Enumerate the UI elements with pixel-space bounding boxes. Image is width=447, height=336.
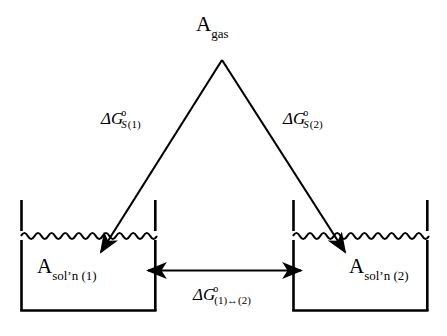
node-label-a-soln-2: Asol’n (2) (349, 256, 409, 280)
thermodynamic-cycle-diagram: Agas Asol’n (1) Asol’n (2) ΔGoS(1) ΔGoS(… (0, 0, 447, 336)
arrow-label-delta-g-s2-subscript-plain: (2) (310, 118, 323, 130)
liquid-surface-right (293, 233, 429, 239)
node-label-a-soln-2-subscript: sol’n (2) (364, 268, 408, 283)
arrow-label-delta-g-1-2-symbol: ΔG (193, 285, 215, 304)
arrow-label-delta-g-s1-superscript: o (121, 107, 126, 118)
node-label-a-soln-1: Asol’n (1) (37, 256, 97, 280)
arrow-label-delta-g-s1: ΔGoS(1) (101, 110, 147, 127)
node-label-a-gas-base: A (196, 12, 211, 36)
node-label-a-gas-subscript: gas (211, 26, 228, 41)
arrow-label-delta-g-s1-symbol: ΔG (101, 109, 123, 128)
node-label-a-gas: Agas (196, 14, 229, 38)
arrow-label-delta-g-s2-subscript-italic: S (303, 118, 309, 130)
arrow-label-delta-g-1-2: ΔGo(1)↔(2) (193, 286, 257, 303)
arrow-label-delta-g-s2: ΔGoS(2) (283, 110, 329, 127)
node-label-a-soln-1-base: A (37, 254, 52, 278)
arrow-label-delta-g-1-2-superscript: o (213, 283, 218, 294)
arrow-label-delta-g-1-2-subscript-plain: (1)↔(2) (214, 294, 251, 306)
arrow-label-delta-g-s1-subscript-plain: (1) (128, 118, 141, 130)
arrow-label-delta-g-s2-symbol: ΔG (283, 109, 305, 128)
liquid-surface-left (21, 233, 157, 239)
arrow-gas-to-solution-1 (101, 60, 222, 252)
node-label-a-soln-2-base: A (349, 254, 364, 278)
arrow-gas-to-solution-2 (222, 60, 345, 252)
node-label-a-soln-1-subscript: sol’n (1) (52, 268, 96, 283)
arrow-label-delta-g-s1-subscript-italic: S (121, 118, 127, 130)
arrow-label-delta-g-s2-superscript: o (303, 107, 308, 118)
